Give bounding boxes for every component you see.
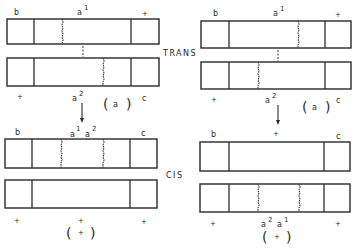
label-b: b [14, 8, 19, 17]
trans-label: TRANS [162, 49, 197, 58]
panel-trans-right: b a 1 + + a 2 c ( a ) [201, 5, 351, 125]
panel-cis-right: b + c + a 2 a 1 + ( + ) [200, 130, 350, 245]
arrow-head-icon [276, 120, 280, 125]
label-b: b [213, 9, 218, 18]
label-a2-sup: 2 [79, 90, 83, 98]
cis-label: CIS [166, 171, 184, 180]
label-a1-sup: 1 [284, 216, 288, 224]
chromosome-bottom [5, 180, 157, 208]
label-c: c [142, 94, 146, 103]
label-a2: a [72, 94, 77, 103]
label-b: b [211, 130, 216, 139]
label-a2-sup: 2 [92, 125, 96, 133]
label-a1-sup: 1 [280, 5, 284, 13]
label-a1: a [70, 130, 75, 139]
label-a1-sup: 1 [84, 4, 88, 12]
phenotype-label: + [274, 233, 280, 241]
paren-close: ) [126, 96, 131, 112]
chromosome-top [5, 139, 157, 168]
paren-open: ( [302, 99, 307, 115]
phenotype-label: a [113, 100, 118, 109]
paren-close: ) [286, 229, 291, 245]
label-a2: a [85, 130, 90, 139]
label-c: c [336, 96, 340, 105]
label-a1: a [77, 8, 82, 17]
phenotype-label: a [312, 103, 317, 112]
label-plus: + [335, 11, 341, 19]
label-a2-sup: 2 [268, 216, 272, 224]
label-plus: + [335, 220, 341, 228]
label-plus: + [14, 217, 20, 225]
label-plus: + [210, 220, 216, 228]
label-plus: + [17, 93, 23, 101]
chromosome-bottom [200, 184, 350, 212]
label-plus: + [78, 217, 84, 225]
label-a1: a [277, 220, 282, 229]
label-a2-sup: 2 [272, 92, 276, 100]
chromosome-top [200, 142, 350, 171]
phenotype-label: + [78, 229, 84, 237]
chromosome-top [7, 19, 159, 44]
paren-open: ( [66, 225, 71, 241]
panel-trans-left: b a 1 + + a 2 c ( a ) [7, 4, 159, 123]
paren-close: ) [90, 225, 95, 241]
label-b: b [15, 128, 20, 137]
panel-cis-left: b a 1 a 2 c + + + ( + ) [5, 125, 157, 241]
paren-close: ) [325, 99, 330, 115]
label-a1: a [273, 9, 278, 18]
label-a2: a [261, 220, 266, 229]
paren-open: ( [262, 229, 267, 245]
chromosome-top [201, 21, 351, 48]
label-plus: + [273, 130, 279, 138]
label-plus: + [211, 96, 217, 104]
cis-trans-diagram: b a 1 + + a 2 c ( a ) TRANS b a 1 + [0, 0, 360, 252]
label-a1-sup: 1 [76, 125, 80, 133]
label-plus: + [141, 218, 147, 226]
arrow-head-icon [80, 118, 84, 123]
paren-open: ( [103, 96, 108, 112]
label-c: c [336, 132, 340, 141]
label-a2: a [265, 96, 270, 105]
chromosome-bottom [7, 58, 159, 86]
label-c: c [141, 129, 145, 138]
label-plus: + [142, 10, 148, 18]
chromosome-bottom [201, 62, 351, 89]
